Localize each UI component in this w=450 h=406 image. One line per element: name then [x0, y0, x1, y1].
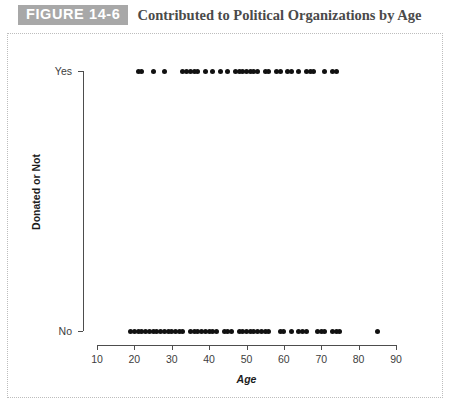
- scatter-point: [218, 69, 223, 74]
- plot-area: Yes No 102030405060708090 Age Donated or…: [8, 34, 442, 397]
- x-axis-tick-label: 40: [192, 353, 226, 365]
- scatter-point: [281, 329, 286, 334]
- figure-header: FIGURE 14-6 Contributed to Political Org…: [18, 5, 421, 25]
- y-axis-line: [83, 71, 84, 331]
- x-axis-title: Age: [97, 373, 396, 385]
- x-axis-tick: [284, 345, 285, 350]
- scatter-point: [195, 69, 200, 74]
- x-axis-tick: [172, 345, 173, 350]
- figure-title: Contributed to Political Organizations b…: [137, 7, 421, 24]
- x-axis-tick-label: 20: [117, 353, 151, 365]
- scatter-point: [229, 329, 234, 334]
- y-axis-title: Donated or Not: [30, 137, 42, 247]
- x-axis-tick: [247, 345, 248, 350]
- scatter-point: [334, 69, 339, 74]
- x-axis-tick-label: 70: [304, 353, 338, 365]
- scatter-point: [214, 329, 219, 334]
- scatter-point: [180, 329, 185, 334]
- y-axis-label-yes: Yes: [16, 65, 72, 77]
- scatter-point: [337, 329, 342, 334]
- y-axis-tick-yes: [78, 71, 83, 72]
- scatter-point: [151, 69, 156, 74]
- y-axis-tick-no: [78, 331, 83, 332]
- x-axis-tick-label: 10: [80, 353, 114, 365]
- x-axis-tick-label: 50: [230, 353, 264, 365]
- scatter-point: [296, 69, 301, 74]
- x-axis-tick-label: 30: [155, 353, 189, 365]
- scatter-point: [289, 69, 294, 74]
- scatter-point: [210, 69, 215, 74]
- scatter-point: [139, 69, 144, 74]
- x-axis-tick: [97, 345, 98, 350]
- y-axis-label-no: No: [16, 325, 72, 337]
- scatter-point: [266, 69, 271, 74]
- scatter-point: [289, 329, 294, 334]
- scatter-point: [266, 329, 271, 334]
- figure-number-badge: FIGURE 14-6: [18, 5, 128, 25]
- scatter-point: [162, 69, 167, 74]
- figure-root: FIGURE 14-6 Contributed to Political Org…: [0, 0, 450, 406]
- x-axis-tick: [359, 345, 360, 350]
- scatter-point: [322, 329, 327, 334]
- x-axis-tick: [396, 345, 397, 350]
- x-axis-tick: [134, 345, 135, 350]
- scatter-point: [304, 329, 309, 334]
- scatter-point: [255, 69, 260, 74]
- x-axis-tick: [321, 345, 322, 350]
- scatter-point: [203, 69, 208, 74]
- x-axis-tick-label: 90: [379, 353, 413, 365]
- scatter-point: [311, 69, 316, 74]
- x-axis-tick: [209, 345, 210, 350]
- scatter-point: [375, 329, 380, 334]
- x-axis-tick-label: 60: [267, 353, 301, 365]
- plot-panel: Yes No 102030405060708090 Age Donated or…: [7, 33, 443, 398]
- scatter-point: [278, 69, 283, 74]
- scatter-point: [225, 69, 230, 74]
- scatter-point: [322, 69, 327, 74]
- x-axis-tick-label: 80: [342, 353, 376, 365]
